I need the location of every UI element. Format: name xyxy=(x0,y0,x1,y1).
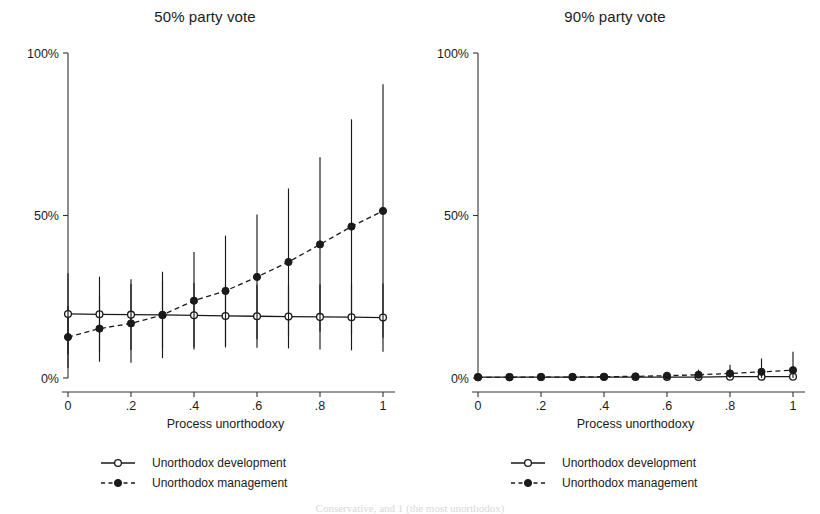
legend-item-development: Unorthodox development xyxy=(101,456,287,470)
legend: Unorthodox developmentUnorthodox managem… xyxy=(511,456,698,490)
y-tick-label: 0% xyxy=(41,372,59,386)
legend-item-management: Unorthodox management xyxy=(101,476,288,490)
marker-filled-circle xyxy=(379,207,386,214)
legend-marker-filled-circle xyxy=(524,479,531,486)
x-tick-label: 1 xyxy=(790,399,797,413)
marker-filled-circle xyxy=(285,258,292,265)
marker-filled-circle xyxy=(537,373,544,380)
legend-item-development: Unorthodox development xyxy=(511,456,697,470)
y-tick-label: 50% xyxy=(444,209,469,223)
marker-filled-circle xyxy=(506,374,513,381)
x-tick-label: .6 xyxy=(252,399,262,413)
panel-right: 90% party vote 0%50%100%0.2.4.6.81Proces… xyxy=(410,0,820,512)
marker-filled-circle xyxy=(632,373,639,380)
y-tick-label: 100% xyxy=(27,47,59,61)
y-tick-label: 0% xyxy=(451,372,469,386)
legend-marker-filled-circle xyxy=(114,479,121,486)
x-tick-label: 0 xyxy=(65,399,72,413)
legend-label: Unorthodox management xyxy=(152,476,288,490)
marker-filled-circle xyxy=(96,325,103,332)
marker-filled-circle xyxy=(663,372,670,379)
y-tick-label: 100% xyxy=(437,47,469,61)
marker-filled-circle xyxy=(159,311,166,318)
legend-label: Unorthodox development xyxy=(152,456,287,470)
x-tick-label: .6 xyxy=(662,399,672,413)
y-tick-label: 50% xyxy=(34,209,59,223)
x-tick-label: 1 xyxy=(380,399,387,413)
x-tick-label: .8 xyxy=(315,399,325,413)
marker-filled-circle xyxy=(348,223,355,230)
marker-filled-circle xyxy=(789,367,796,374)
x-tick-label: .4 xyxy=(189,399,199,413)
marker-filled-circle xyxy=(127,320,134,327)
legend-label: Unorthodox management xyxy=(562,476,698,490)
marker-filled-circle xyxy=(253,273,260,280)
panel-left-plot: 0%50%100%0.2.4.6.81Process unorthodoxyUn… xyxy=(0,0,410,512)
marker-filled-circle xyxy=(600,373,607,380)
panel-right-plot: 0%50%100%0.2.4.6.81Process unorthodoxyUn… xyxy=(410,0,820,512)
marker-filled-circle xyxy=(695,371,702,378)
marker-filled-circle xyxy=(64,333,71,340)
marker-filled-circle xyxy=(190,297,197,304)
x-tick-label: .8 xyxy=(725,399,735,413)
legend-marker-open-circle xyxy=(525,460,532,467)
legend-item-management: Unorthodox management xyxy=(511,476,698,490)
marker-filled-circle xyxy=(474,374,481,381)
x-tick-label: .2 xyxy=(126,399,136,413)
x-axis-title: Process unorthodoxy xyxy=(577,417,695,431)
marker-filled-circle xyxy=(726,370,733,377)
legend-label: Unorthodox development xyxy=(562,456,697,470)
page-caption-fragment: Conservative, and 1 (the most unorthodox… xyxy=(0,500,820,514)
marker-filled-circle xyxy=(758,368,765,375)
x-tick-label: 0 xyxy=(475,399,482,413)
series-management xyxy=(64,84,386,368)
legend-marker-open-circle xyxy=(115,460,122,467)
marker-filled-circle xyxy=(569,373,576,380)
marker-filled-circle xyxy=(222,287,229,294)
x-axis-title: Process unorthodoxy xyxy=(167,417,285,431)
panel-left: 50% party vote 0%50%100%0.2.4.6.81Proces… xyxy=(0,0,410,512)
x-tick-label: .4 xyxy=(599,399,609,413)
legend: Unorthodox developmentUnorthodox managem… xyxy=(101,456,288,490)
marker-filled-circle xyxy=(316,241,323,248)
x-tick-label: .2 xyxy=(536,399,546,413)
